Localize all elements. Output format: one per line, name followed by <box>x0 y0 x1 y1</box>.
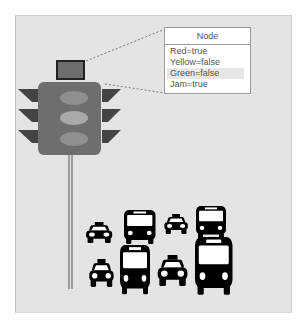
node-attribute-yellow: Yellow=false <box>170 57 250 68</box>
red-lamp-icon <box>60 91 88 105</box>
traffic-light-icon <box>18 61 121 155</box>
bus-icon <box>120 245 150 294</box>
taxi-icon <box>164 214 187 234</box>
connector-line-top <box>86 29 165 61</box>
bus-icon <box>124 210 156 244</box>
taxi-icon <box>158 255 188 286</box>
bus-icon <box>196 206 226 238</box>
node-attribute-jam: Jam=true <box>170 79 250 90</box>
bus-icon <box>195 237 233 295</box>
node-attributes: Red=true Yellow=false Green=false Jam=tr… <box>165 45 250 90</box>
node-attribute-red: Red=true <box>170 46 250 57</box>
green-lamp-icon <box>60 132 88 146</box>
node-attribute-green: Green=false <box>167 68 244 79</box>
taxi-icon <box>86 222 112 243</box>
taxi-icon <box>89 259 113 287</box>
traffic-scene <box>0 0 303 326</box>
node-title: Node <box>165 28 250 45</box>
node-box: Node Red=true Yellow=false Green=false J… <box>164 27 251 94</box>
sensor-box-icon <box>57 61 84 79</box>
yellow-lamp-icon <box>60 111 88 125</box>
